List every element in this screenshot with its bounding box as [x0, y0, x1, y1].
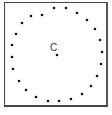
perimeter-point: [47, 100, 50, 103]
perimeter-point: [58, 100, 61, 103]
perimeter-point: [100, 63, 103, 66]
perimeter-point: [35, 96, 38, 99]
perimeter-point: [11, 44, 14, 47]
perimeter-point: [21, 22, 24, 25]
perimeter-point: [18, 80, 21, 83]
perimeter-point: [70, 98, 73, 101]
perimeter-point: [96, 75, 99, 78]
perimeter-point: [15, 33, 18, 36]
perimeter-point: [94, 28, 97, 31]
perimeter-point: [30, 15, 33, 18]
perimeter-point: [41, 14, 44, 17]
perimeter-point: [65, 7, 68, 10]
perimeter-point: [90, 85, 93, 88]
center-label: C: [50, 43, 57, 53]
perimeter-point: [12, 68, 15, 71]
perimeter-point: [25, 89, 28, 92]
perimeter-point: [81, 93, 84, 96]
center-point: [56, 54, 59, 57]
perimeter-point: [101, 51, 104, 54]
perimeter-point: [11, 56, 14, 59]
perimeter-point: [99, 39, 102, 42]
perimeter-point: [86, 19, 89, 22]
perimeter-point: [76, 12, 79, 15]
circle-points-plot: [0, 0, 112, 115]
perimeter-point: [53, 7, 56, 10]
